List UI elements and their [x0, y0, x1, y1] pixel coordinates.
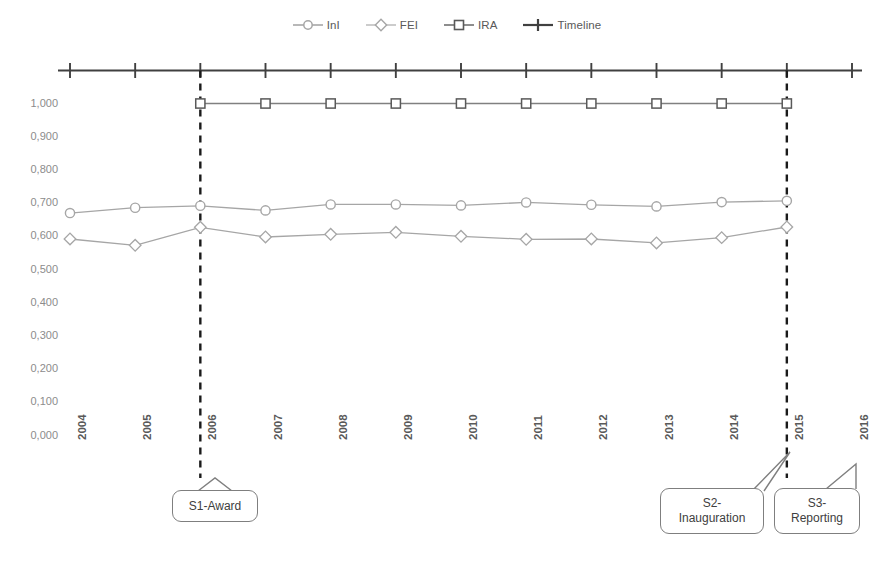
y-axis-tick-label: 0,200 — [10, 362, 58, 374]
datapoint-fei-2013 — [651, 237, 663, 249]
callout-s1-line1: S1-Award — [189, 499, 241, 514]
datapoint-ira-2014 — [717, 99, 726, 108]
datapoint-ira-2013 — [652, 99, 661, 108]
x-axis-tick-label-2007: 2007 — [272, 414, 284, 440]
x-axis-tick-label-2015: 2015 — [793, 414, 805, 440]
datapoint-fei-2014 — [716, 232, 728, 244]
datapoint-ira-2006 — [196, 99, 205, 108]
x-axis-tick-label-2008: 2008 — [337, 414, 349, 440]
y-axis-tick-label: 0,300 — [10, 329, 58, 341]
datapoint-ini-2015 — [782, 196, 791, 205]
datapoint-ira-2009 — [391, 99, 400, 108]
datapoint-ira-2015 — [782, 99, 791, 108]
x-axis-tick-label-2010: 2010 — [467, 414, 479, 440]
datapoint-fei-2010 — [455, 231, 467, 243]
datapoint-ira-2010 — [456, 99, 465, 108]
datapoint-ira-2007 — [261, 99, 270, 108]
series-line-ini — [70, 201, 787, 213]
callout-s2-pointer — [752, 452, 790, 491]
callout-s1-award[interactable]: S1-Award — [172, 490, 258, 522]
callout-s2-inauguration[interactable]: S2- Inauguration — [660, 488, 764, 534]
callout-s3-reporting[interactable]: S3- Reporting — [774, 488, 860, 534]
y-axis-tick-label: 0,400 — [10, 296, 58, 308]
callout-s3-line2: Reporting — [791, 511, 843, 526]
y-axis-tick-label: 0,600 — [10, 229, 58, 241]
datapoint-ini-2006 — [196, 201, 205, 210]
datapoint-ini-2010 — [456, 201, 465, 210]
datapoint-ini-2005 — [131, 203, 140, 212]
x-axis-tick-label-2009: 2009 — [402, 414, 414, 440]
datapoint-fei-2015 — [781, 221, 793, 233]
x-axis-tick-label-2004: 2004 — [76, 414, 88, 440]
x-axis-tick-label-2005: 2005 — [141, 414, 153, 440]
datapoint-ira-2011 — [522, 99, 531, 108]
datapoint-ira-2012 — [587, 99, 596, 108]
callout-s3-pointer — [826, 464, 856, 489]
datapoint-ini-2004 — [65, 208, 74, 217]
datapoint-ini-2014 — [717, 198, 726, 207]
datapoint-ini-2007 — [261, 206, 270, 215]
datapoint-ini-2008 — [326, 200, 335, 209]
datapoint-ini-2009 — [391, 200, 400, 209]
y-axis-tick-label: 1,000 — [10, 97, 58, 109]
datapoint-fei-2007 — [260, 231, 272, 243]
datapoint-ini-2012 — [587, 200, 596, 209]
callout-s3-line1: S3- — [808, 496, 827, 511]
y-axis-tick-label: 0,500 — [10, 263, 58, 275]
callout-s2-line1: S2- — [703, 496, 722, 511]
series-line-fei — [70, 227, 787, 245]
x-axis-tick-label-2012: 2012 — [597, 414, 609, 440]
datapoint-fei-2006 — [195, 222, 207, 234]
datapoint-fei-2012 — [586, 233, 598, 245]
datapoint-fei-2004 — [64, 233, 76, 245]
datapoint-fei-2009 — [390, 227, 402, 239]
datapoint-ira-2008 — [326, 99, 335, 108]
datapoint-fei-2005 — [129, 239, 141, 251]
datapoint-ini-2013 — [652, 202, 661, 211]
x-axis-tick-label-2013: 2013 — [663, 414, 675, 440]
y-axis-tick-label: 0,800 — [10, 163, 58, 175]
y-axis-tick-label: 0,000 — [10, 429, 58, 441]
datapoint-fei-2008 — [325, 229, 337, 241]
callout-s2-line2: Inauguration — [679, 511, 746, 526]
datapoint-ini-2011 — [522, 198, 531, 207]
x-axis-tick-label-2011: 2011 — [532, 415, 544, 440]
y-axis-tick-label: 0,900 — [10, 130, 58, 142]
chart-canvas: InI FEI IRA Timeline 1,0000 — [0, 0, 894, 569]
x-axis-tick-label-2016: 2016 — [858, 414, 870, 440]
y-axis-tick-label: 0,100 — [10, 395, 58, 407]
plot-area — [0, 0, 894, 569]
x-axis-tick-label-2014: 2014 — [728, 414, 740, 440]
x-axis-tick-label-2006: 2006 — [206, 414, 218, 440]
y-axis-tick-label: 0,700 — [10, 196, 58, 208]
datapoint-fei-2011 — [520, 233, 532, 245]
